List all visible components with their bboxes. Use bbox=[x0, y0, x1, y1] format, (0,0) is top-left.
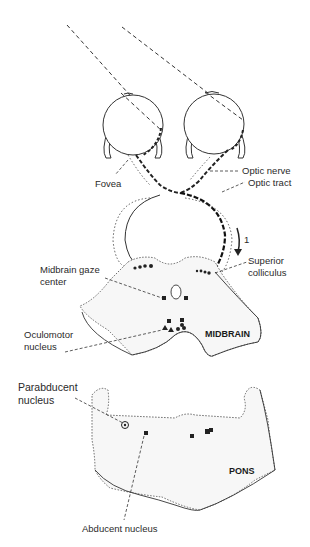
superior-colliculus-label-1: Superior bbox=[248, 255, 284, 267]
midbrain-label: MIDBRAIN bbox=[205, 329, 250, 341]
right-eye bbox=[184, 92, 245, 159]
fovea-label: Fovea bbox=[95, 178, 121, 190]
pons-region bbox=[92, 387, 275, 510]
midbrain-gaze-label-1: Midbrain gaze bbox=[40, 264, 100, 276]
parabducent-label-2: nucleus bbox=[18, 394, 54, 407]
parabducent-label-1: Parabducent bbox=[18, 381, 78, 394]
aqueduct bbox=[171, 285, 181, 299]
superior-colliculus-label-2: colliculus bbox=[248, 267, 287, 279]
oculomotor-label-1: Oculomotor bbox=[24, 329, 73, 341]
arrow-number-label: 1 bbox=[244, 234, 249, 246]
midbrain-gaze-label-2: center bbox=[40, 276, 66, 288]
arrow-down-icon bbox=[234, 228, 242, 256]
oculomotor-label-2: nucleus bbox=[24, 341, 57, 353]
left-eye bbox=[103, 93, 163, 158]
pons-label: PONS bbox=[229, 466, 255, 478]
abducent-label: Abducent nucleus bbox=[82, 523, 158, 535]
optic-tract-label: Optic tract bbox=[248, 177, 291, 189]
optic-nerve-label: Optic nerve bbox=[242, 165, 291, 177]
